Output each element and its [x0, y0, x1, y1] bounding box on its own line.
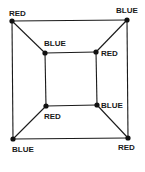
edge-outer-bl-inner-bl — [13, 106, 46, 139]
vertex-label-outer-tl: RED — [9, 9, 26, 18]
edge-inner-bl-inner-tl — [45, 53, 46, 106]
vertex-label-inner-bl: RED — [44, 112, 61, 121]
vertex-outer-bl — [10, 136, 15, 141]
cube-graph-coloring-diagram: REDBLUEBLUEREDBLUEREDREDBLUE — [0, 0, 145, 172]
vertex-label-inner-tl: BLUE — [44, 39, 66, 48]
edge-outer-bl-outer-tl — [12, 21, 13, 139]
vertex-label-outer-tr: BLUE — [116, 6, 138, 15]
edge-inner-tl-inner-tr — [45, 52, 96, 53]
edge-outer-tr-inner-tr — [96, 20, 127, 52]
vertex-inner-bl — [43, 103, 48, 108]
vertex-outer-tl — [9, 18, 14, 23]
vertex-label-outer-br: RED — [118, 143, 135, 152]
vertex-outer-br — [125, 135, 130, 140]
edges-group — [12, 20, 128, 139]
edge-inner-br-inner-bl — [46, 105, 97, 106]
edge-outer-br-outer-bl — [13, 138, 128, 139]
vertex-inner-tl — [42, 50, 47, 55]
edge-inner-tr-inner-br — [96, 52, 97, 105]
vertex-inner-br — [94, 102, 99, 107]
vertex-inner-tr — [93, 49, 98, 54]
edge-outer-tl-inner-tl — [12, 21, 45, 53]
vertex-outer-tr — [124, 17, 129, 22]
edge-outer-tr-outer-br — [127, 20, 128, 138]
vertex-label-inner-tr: RED — [101, 49, 118, 58]
edge-outer-tl-outer-tr — [12, 20, 127, 21]
vertex-label-outer-bl: BLUE — [12, 145, 34, 154]
vertex-label-inner-br: BLUE — [101, 101, 123, 110]
